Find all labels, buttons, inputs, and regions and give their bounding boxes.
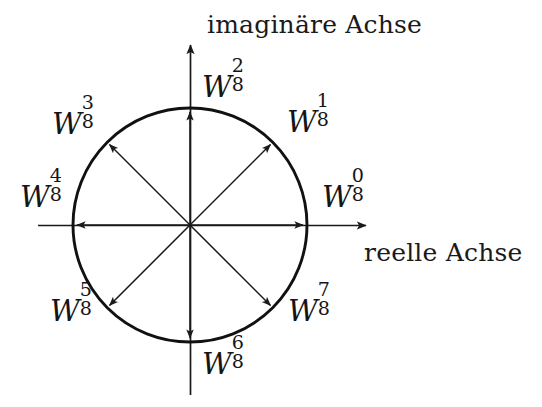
vector-W8-1 [190, 145, 271, 226]
label-W8-7-base: W [288, 294, 317, 328]
label-W8-4-sub: 8 [50, 185, 62, 204]
label-W8-5-sub: 8 [80, 299, 92, 318]
label-W8-5: W58 [50, 292, 97, 326]
label-W8-0: W08 [322, 178, 369, 212]
label-W8-4-base: W [20, 180, 49, 214]
label-W8-0-base: W [322, 180, 351, 214]
root-vectors [77, 112, 303, 338]
label-W8-6-sub: 8 [232, 352, 244, 371]
label-W8-3-base: W [52, 107, 81, 141]
label-W8-1: W18 [287, 103, 334, 137]
unit-circle-figure: imaginäre Achse reelle Achse W08 W18 W28… [0, 0, 542, 407]
imaginary-axis-label: imaginäre Achse [207, 12, 422, 37]
label-W8-7: W78 [288, 292, 335, 326]
label-W8-4: W48 [20, 178, 67, 212]
label-W8-1-sub: 8 [317, 110, 329, 129]
label-W8-2: W28 [202, 68, 249, 102]
label-W8-2-base: W [202, 70, 231, 104]
vector-W8-3 [110, 145, 191, 226]
label-W8-2-sub: 8 [232, 75, 244, 94]
real-axis-label: reelle Achse [364, 240, 522, 265]
label-W8-3-sub: 8 [82, 112, 94, 131]
vector-W8-5 [110, 225, 191, 306]
unit-circle-diagram [0, 0, 542, 407]
label-W8-6-base: W [202, 347, 231, 381]
label-W8-6: W68 [202, 345, 249, 379]
label-W8-0-sub: 8 [352, 185, 364, 204]
label-W8-1-base: W [287, 105, 316, 139]
label-W8-7-sub: 8 [318, 299, 330, 318]
label-W8-5-base: W [50, 294, 79, 328]
label-W8-3: W38 [52, 105, 99, 139]
vector-W8-7 [190, 225, 271, 306]
